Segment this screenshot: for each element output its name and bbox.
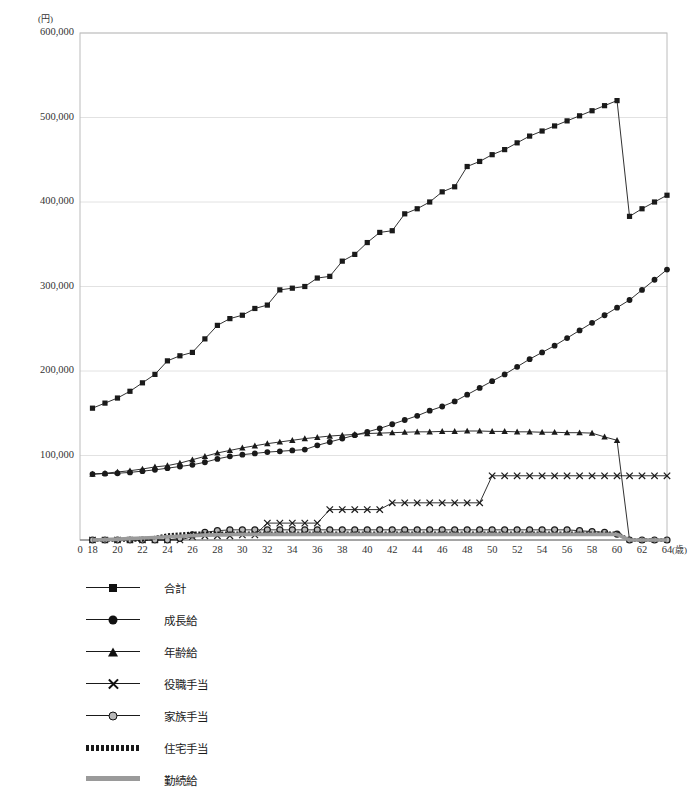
y-tick-label: 400,000 — [8, 195, 74, 206]
chart-svg — [0, 0, 699, 560]
cross-marker — [107, 678, 120, 691]
x-tick-label: 58 — [580, 544, 604, 555]
legend-key — [86, 739, 140, 757]
x-tick-label: 56 — [555, 544, 579, 555]
series-成長給 — [90, 267, 670, 477]
legend-key — [86, 707, 140, 725]
x-tick-label: 52 — [505, 544, 529, 555]
x-tick-label: 26 — [180, 544, 204, 555]
legend-item-家族手当[interactable]: 家族手当 — [86, 700, 208, 732]
x-tick-label: 32 — [255, 544, 279, 555]
legend-label: 住宅手当 — [164, 740, 208, 756]
y-tick-label: 100,000 — [8, 449, 74, 460]
x-tick-label: 42 — [380, 544, 404, 555]
open-circle-marker — [109, 712, 118, 721]
x-tick-label: 28 — [205, 544, 229, 555]
legend-item-役職手当[interactable]: 役職手当 — [86, 668, 208, 700]
legend-item-住宅手当[interactable]: 住宅手当 — [86, 732, 208, 764]
legend-item-成長給[interactable]: 成長給 — [86, 604, 197, 636]
x-tick-label: 60 — [605, 544, 629, 555]
dotted-line-swatch — [86, 745, 140, 751]
x-tick-label: 40 — [355, 544, 379, 555]
x-tick-label: 62 — [630, 544, 654, 555]
x-tick-label: 22 — [130, 544, 154, 555]
x-tick-label: 48 — [455, 544, 479, 555]
x-tick-label: 34 — [280, 544, 304, 555]
y-tick-label: 300,000 — [8, 280, 74, 291]
thick-line-swatch — [86, 776, 140, 781]
legend-item-年齢給[interactable]: 年齢給 — [86, 636, 197, 668]
x-tick-label: 24 — [155, 544, 179, 555]
x-tick-label: 64 — [655, 544, 679, 555]
legend-label: 合計 — [164, 580, 186, 596]
legend-key — [86, 771, 140, 789]
chart-legend: 合計成長給年齢給役職手当家族手当住宅手当勤続給 — [0, 572, 699, 796]
x-tick-label: 44 — [405, 544, 429, 555]
x-tick-label: 38 — [330, 544, 354, 555]
circle-marker — [109, 616, 118, 625]
wage-curve-chart: (円) (歳) 600,000500,000400,000300,000200,… — [0, 0, 699, 796]
legend-label: 家族手当 — [164, 708, 208, 724]
x-tick-label: 54 — [530, 544, 554, 555]
legend-label: 勤続給 — [164, 772, 197, 788]
x-tick-label: 46 — [430, 544, 454, 555]
square-marker — [109, 584, 117, 592]
legend-item-勤続給[interactable]: 勤続給 — [86, 764, 197, 796]
triangle-marker — [108, 648, 118, 657]
legend-item-合計[interactable]: 合計 — [86, 572, 186, 604]
x-tick-label: 30 — [230, 544, 254, 555]
legend-key — [86, 611, 140, 629]
x-tick-label: 36 — [305, 544, 329, 555]
legend-key — [86, 643, 140, 661]
series-合計 — [90, 98, 670, 411]
y-tick-label: 500,000 — [8, 111, 74, 122]
plot-area — [0, 0, 699, 560]
legend-label: 役職手当 — [164, 676, 208, 692]
series-年齢給 — [89, 428, 670, 543]
y-tick-label: 200,000 — [8, 364, 74, 375]
x-tick-label: 18 — [80, 544, 104, 555]
legend-key — [86, 675, 140, 693]
legend-label: 成長給 — [164, 612, 197, 628]
y-tick-label: 600,000 — [8, 26, 74, 37]
x-tick-label: 50 — [480, 544, 504, 555]
legend-key — [86, 579, 140, 597]
x-tick-label: 20 — [105, 544, 129, 555]
legend-label: 年齢給 — [164, 644, 197, 660]
